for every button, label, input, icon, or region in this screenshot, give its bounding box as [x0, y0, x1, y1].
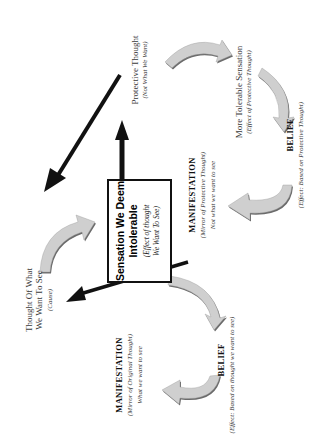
belief-original-sub: (Effect: Based on thought we want to see… — [228, 316, 236, 434]
more-tolerable-label: More Tolerable Sensation (Effect of Prot… — [234, 45, 253, 138]
curved-arrow-sensation-to-belief-icon — [168, 276, 227, 332]
manifestation-original-note: What we want to see — [136, 346, 144, 404]
protective-thought-title: Protective Thought — [130, 35, 140, 105]
box-title-line1: Sensation We Deem — [114, 181, 126, 281]
curved-arrow-protective-to-tolerable-icon — [165, 40, 233, 70]
more-tolerable-title: More Tolerable Sensation — [234, 45, 244, 138]
sensation-box: Sensation We Deem Intolerable (Effect of… — [108, 180, 171, 282]
box-title-line2: Intolerable — [127, 204, 139, 257]
manifestation-original-sub: (Mirror of Original Thought) — [126, 333, 134, 416]
belief-original-label: BELIEF (Effect: Based on thought we want… — [216, 316, 236, 434]
thought-want-title-line2: We Want To See — [34, 270, 44, 329]
manifestation-original-label: MANIFESTATION (Mirror of Original Though… — [114, 333, 144, 416]
thought-want-sub: (Cause) — [46, 288, 54, 311]
manifestation-original-title: MANIFESTATION — [114, 337, 124, 413]
protective-thought-sub: (Not What We Want) — [141, 41, 149, 99]
thought-want-label: Thought Of What We Want To See (Cause) — [24, 268, 54, 332]
belief-original-title: BELIEF — [216, 344, 226, 377]
more-tolerable-sub: (Effect of Protective Thought) — [245, 50, 253, 134]
curved-arrow-thought-to-sensation-icon — [40, 215, 96, 274]
manifestation-protective-note: Not what we want to see — [209, 161, 217, 230]
protective-thought-label: Protective Thought (Not What We Want) — [130, 35, 149, 105]
arrow-sensation-up-icon — [115, 120, 129, 180]
curved-arrow-belief-to-manifestation-icon — [228, 185, 293, 222]
manifestation-protective-label: MANIFESTATION (Mirror of Protective Thou… — [187, 151, 217, 238]
box-sub-line2: We Want To See) — [152, 206, 161, 256]
curved-arrow-belief-to-manifestation-original-icon — [162, 375, 221, 406]
manifestation-protective-sub: (Mirror of Protective Thought) — [199, 151, 207, 238]
arrow-protective-to-lower-left-icon — [44, 75, 120, 192]
diagram-canvas: Sensation We Deem Intolerable (Effect of… — [0, 0, 324, 443]
belief-protective-sub: (Effect: Based on Protective Thought) — [297, 101, 305, 208]
belief-protective-title: BELIEF — [285, 119, 295, 152]
thought-want-title-line1: Thought Of What — [24, 268, 34, 332]
box-sub-line1: (Effect of thought — [142, 204, 151, 257]
manifestation-protective-title: MANIFESTATION — [187, 157, 197, 233]
